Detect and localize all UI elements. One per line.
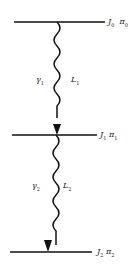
gamma-2-arrow-icon [44, 240, 52, 252]
gamma-2-label: γ2 [32, 182, 40, 192]
gamma-1-arrow-icon [53, 124, 61, 135]
gamma-2-wavy-line [53, 135, 59, 245]
level-2-label: J2 π2 [97, 248, 114, 258]
level-scheme-diagram [0, 0, 140, 269]
level-0-label: J0 π0 [108, 18, 128, 28]
gamma-1-label: γ1 [36, 76, 44, 86]
multipolarity-1-label: L1 [71, 76, 80, 86]
gamma-1-wavy-line [54, 22, 60, 118]
multipolarity-2-label: L2 [63, 182, 72, 192]
level-1-label: J1 π1 [100, 131, 117, 141]
